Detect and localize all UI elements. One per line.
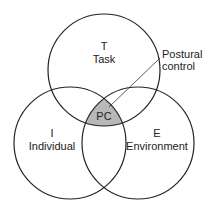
- callout-line1: Postural: [162, 48, 202, 60]
- environment-label: Environment: [126, 140, 188, 152]
- individual-letter: I: [50, 127, 53, 139]
- pc-label: PC: [96, 110, 111, 122]
- environment-letter: E: [153, 127, 160, 139]
- individual-label: Individual: [29, 140, 75, 152]
- venn-diagram: T Task I Individual E Environment PC Pos…: [0, 0, 209, 207]
- callout-line2: control: [162, 60, 195, 72]
- task-label: Task: [93, 53, 116, 65]
- task-letter: T: [101, 40, 108, 52]
- callout-line: [109, 58, 160, 107]
